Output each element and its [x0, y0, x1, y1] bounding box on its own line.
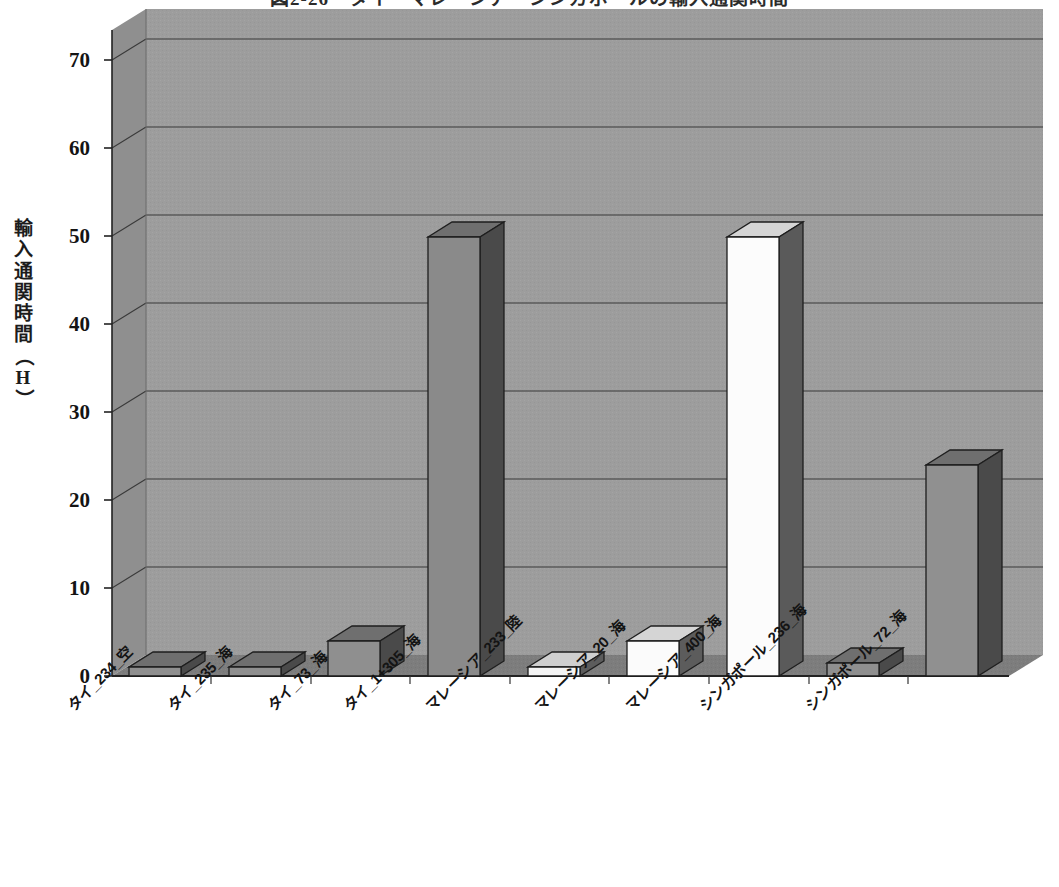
- bar-column[interactable]: [926, 450, 1002, 676]
- plot-back-wall: [146, 9, 1043, 655]
- bar-column[interactable]: [428, 222, 504, 676]
- chart-svg: [0, 0, 1059, 887]
- y-tick-label-40: 40: [44, 312, 90, 337]
- y-tick-label-10: 10: [44, 576, 90, 601]
- plot-left-wall: [112, 9, 146, 676]
- y-tick-label-70: 70: [44, 48, 90, 73]
- y-tick-label-30: 30: [44, 400, 90, 425]
- y-tick-label-50: 50: [44, 224, 90, 249]
- y-tick-label-60: 60: [44, 136, 90, 161]
- y-tick-label-20: 20: [44, 488, 90, 513]
- chart-plot-area: [0, 0, 1059, 887]
- y-tick-marks: [104, 60, 112, 676]
